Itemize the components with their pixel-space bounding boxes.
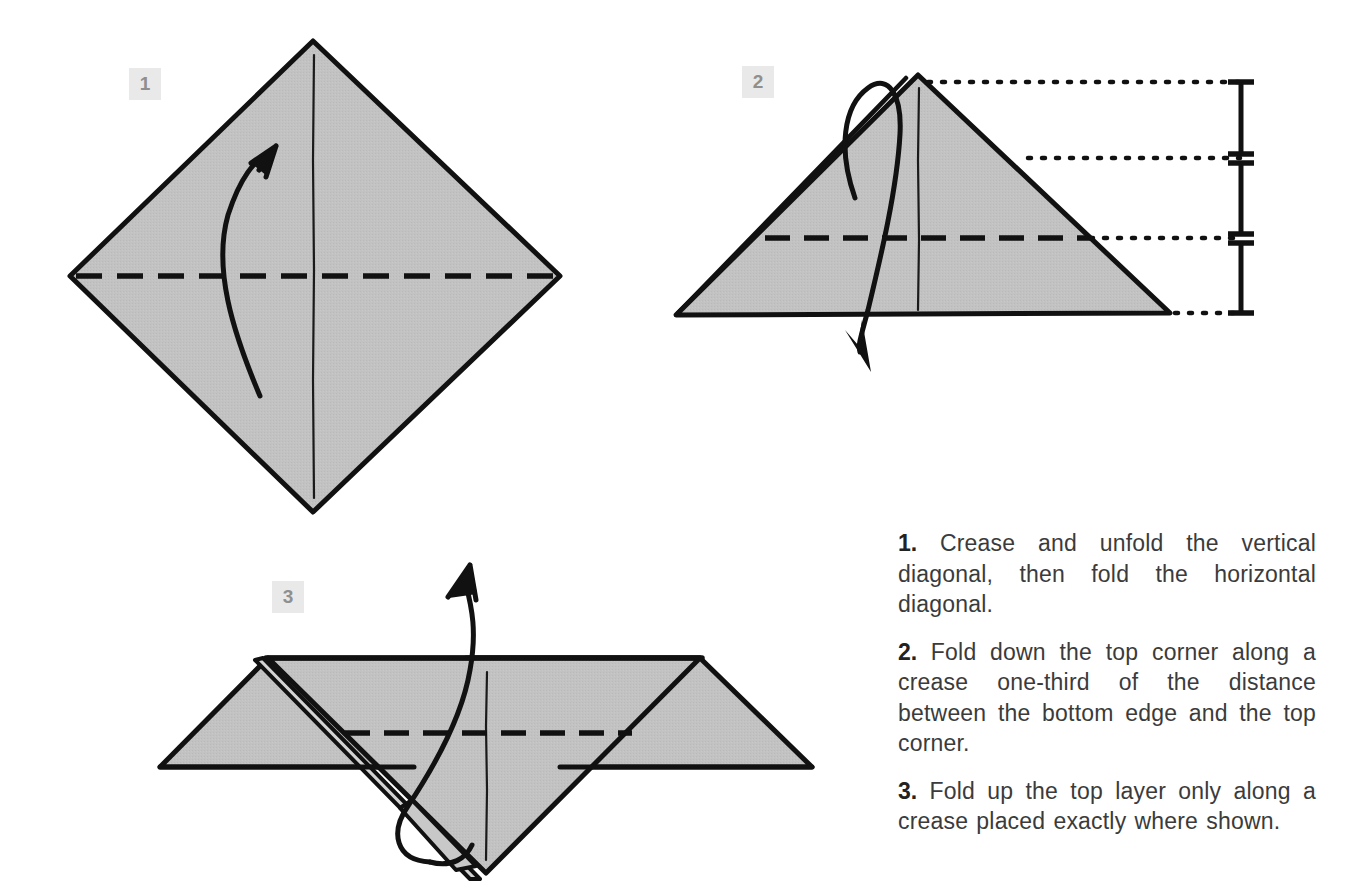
instruction-text-3: Fold up the top layer only along a creas… <box>898 778 1316 835</box>
instructions-panel: 1. Crease and unfold the vertical diagon… <box>898 528 1316 837</box>
instruction-item-2: 2. Fold down the top corner along a crea… <box>898 637 1316 759</box>
fold-up-arrow-head-fill <box>449 563 477 598</box>
hidden-flap <box>400 800 476 870</box>
back-layer-triangle <box>678 78 906 313</box>
vertical-center-crease <box>918 88 919 310</box>
step-1-diagram <box>70 41 560 512</box>
fold-down-arrow-shaft <box>845 83 900 352</box>
thirds-measurement-bracket <box>1228 82 1254 313</box>
instruction-number-2: 2. <box>898 639 917 665</box>
instruction-number-3: 3. <box>898 778 917 804</box>
valley-fold-arrow-head <box>251 146 276 177</box>
step-badge-2: 2 <box>742 66 774 98</box>
fold-up-arrow-loop <box>430 845 472 864</box>
step-badge-3: 3 <box>272 581 304 613</box>
fold-up-arrow-shaft <box>398 585 474 862</box>
fold-up-arrow-head <box>448 565 476 600</box>
right-wing-paper <box>466 658 812 767</box>
step-2-diagram <box>676 75 1254 372</box>
step-3-diagram <box>160 563 812 879</box>
origami-instruction-page: 1 2 3 1. Crease and unfold the vertical … <box>0 0 1364 889</box>
instruction-item-1: 1. Crease and unfold the vertical diagon… <box>898 528 1316 620</box>
vertical-diagonal-crease <box>313 55 314 498</box>
instruction-text-1: Crease and unfold the vertical diagonal,… <box>898 530 1316 617</box>
diamond-paper <box>70 41 560 512</box>
valley-fold-arrow-head-fill <box>252 145 278 176</box>
center-v-paper <box>268 658 700 873</box>
back-layer-sliver <box>255 658 480 879</box>
fold-down-arrow-head <box>845 320 871 372</box>
instruction-number-1: 1. <box>898 530 917 556</box>
triangle-paper <box>676 75 1170 315</box>
vertical-center-crease-step3 <box>486 672 487 860</box>
instruction-text-2: Fold down the top corner along a crease … <box>898 639 1316 757</box>
instruction-item-3: 3. Fold up the top layer only along a cr… <box>898 776 1316 837</box>
left-wing-paper <box>160 658 413 767</box>
valley-fold-arrow-shaft <box>223 150 272 396</box>
step-badge-1: 1 <box>129 68 161 100</box>
